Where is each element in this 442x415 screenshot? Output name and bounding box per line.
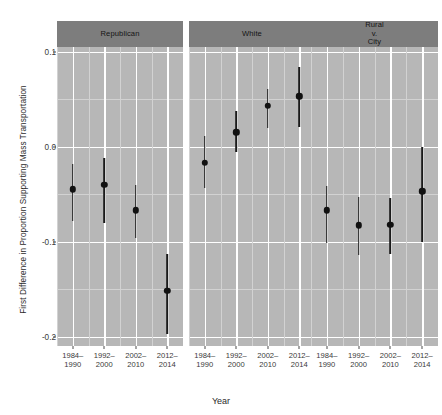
data-point (233, 129, 239, 135)
error-bar (72, 164, 74, 221)
x-tick-mark (299, 346, 300, 349)
gridline-minor-vertical (252, 47, 253, 346)
x-tick-mark (236, 346, 237, 349)
x-tick-mark (422, 346, 423, 349)
y-tick-mark (53, 51, 56, 52)
x-tick-mark (104, 346, 105, 349)
data-point (324, 207, 330, 213)
error-bar (421, 147, 423, 242)
data-point (387, 221, 393, 227)
gridline-minor-vertical (57, 47, 58, 346)
gridline-major-vertical (205, 47, 207, 346)
x-tick-mark (390, 346, 391, 349)
y-tick-label: -0.1 (22, 237, 56, 246)
x-tick-mark (267, 346, 268, 349)
error-bar (166, 254, 168, 334)
x-tick-label: 2012–2014 (402, 351, 442, 369)
gridline-minor-vertical (311, 47, 312, 346)
gridline-minor-vertical (343, 47, 344, 346)
facet-strip-2: Ruralv.City (311, 21, 438, 47)
facet-strip-1: White (189, 21, 315, 47)
x-tick-mark (204, 346, 205, 349)
error-bar (103, 158, 105, 223)
gridline-minor-vertical (375, 47, 376, 346)
panel-0 (57, 47, 183, 346)
panel-2 (311, 47, 438, 346)
gridline-minor-vertical (120, 47, 121, 346)
gridline-minor-vertical (284, 47, 285, 346)
gridline-major-vertical (236, 47, 238, 346)
y-tick-label: 0.1 (22, 47, 56, 56)
x-tick-mark (135, 346, 136, 349)
x-tick-mark (72, 346, 73, 349)
x-axis-title: Year (0, 396, 442, 406)
y-tick-mark (53, 241, 56, 242)
gridline-minor-vertical (89, 47, 90, 346)
gridline-minor-vertical (189, 47, 190, 346)
facet-strip-label: Ruralv.City (365, 21, 384, 47)
gridline-major-vertical (390, 47, 392, 346)
facet-strip-0: Republican (57, 21, 183, 47)
y-axis: 0.10.0-0.1-0.2 (18, 0, 56, 415)
error-bar (326, 186, 328, 243)
y-tick-label: -0.2 (22, 332, 56, 341)
data-point (133, 207, 139, 213)
chart-root: First Difference in Proportion Supportin… (0, 0, 442, 415)
data-point (265, 103, 271, 109)
x-axis-2: 1984–19901992–20002002–20102012–2014 (311, 346, 438, 394)
gridline-minor-vertical (152, 47, 153, 346)
gridline-minor-vertical (406, 47, 407, 346)
data-point (164, 288, 170, 294)
data-point (101, 181, 107, 187)
data-point (355, 222, 361, 228)
panel-1 (189, 47, 315, 346)
data-point (202, 160, 208, 166)
x-tick-mark (358, 346, 359, 349)
facet-strip-label: White (242, 30, 262, 39)
facet-strip-label: Republican (101, 30, 140, 39)
y-tick-mark (53, 146, 56, 147)
x-axis-0: 1984–19901992–20002002–20102012–2014 (57, 346, 183, 394)
y-tick-mark (53, 336, 56, 337)
y-tick-label: 0.0 (22, 142, 56, 151)
gridline-minor-vertical (221, 47, 222, 346)
x-axis-1: 1984–19901992–20002002–20102012–2014 (189, 346, 315, 394)
data-point (70, 186, 76, 192)
x-tick-mark (167, 346, 168, 349)
x-tick-label: 2012–2014 (147, 351, 187, 369)
x-tick-mark (326, 346, 327, 349)
